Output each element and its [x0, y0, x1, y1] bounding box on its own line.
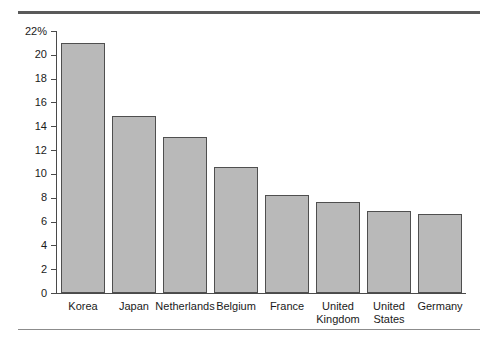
y-axis-tick — [51, 79, 57, 80]
x-axis-category-label: Germany — [409, 300, 471, 313]
y-axis-tick-label-text: 0 — [3, 288, 47, 299]
plot-area: 0246810121416182022% KoreaJapanNetherlan… — [0, 0, 494, 343]
y-axis-line — [56, 31, 57, 293]
y-axis-tick — [51, 222, 57, 223]
y-axis-tick-label-text: 16 — [3, 97, 47, 108]
y-axis-tick — [51, 102, 57, 103]
y-axis-tick-label-text: 4 — [3, 240, 47, 251]
y-axis-tick — [51, 198, 57, 199]
bar — [214, 167, 258, 293]
y-axis-tick-label: 14 — [0, 121, 47, 132]
y-axis-tick-label: 22% — [0, 26, 47, 37]
y-axis-tick-label-text: 12 — [3, 145, 47, 156]
y-axis-tick-label-text: 8 — [3, 192, 47, 203]
y-axis-tick-label: 12 — [0, 145, 47, 156]
y-axis-tick-label: 6 — [0, 216, 47, 227]
y-axis-tick — [51, 55, 57, 56]
y-axis-tick — [51, 126, 57, 127]
y-axis-tick-label: 0 — [0, 288, 47, 299]
bar — [418, 214, 462, 293]
bar — [316, 202, 360, 293]
bar — [367, 211, 411, 293]
y-axis-tick-label: 8 — [0, 192, 47, 203]
y-axis-tick — [51, 174, 57, 175]
y-axis-tick-label-text: 22% — [3, 26, 47, 37]
y-axis-tick-label-text: 6 — [3, 216, 47, 227]
bar-chart-figure: 0246810121416182022% KoreaJapanNetherlan… — [0, 0, 494, 343]
y-axis-tick-label: 16 — [0, 97, 47, 108]
y-axis-tick-label-text: 2 — [3, 264, 47, 275]
y-axis-tick-label-text: 20 — [3, 49, 47, 60]
y-axis-tick — [51, 293, 57, 294]
bar — [61, 43, 105, 293]
y-axis-tick-label: 4 — [0, 240, 47, 251]
y-axis-tick — [51, 269, 57, 270]
y-axis-tick-label: 20 — [0, 49, 47, 60]
x-axis-line — [56, 293, 466, 294]
y-axis-tick — [51, 31, 57, 32]
y-axis-tick-label-text: 18 — [3, 73, 47, 84]
y-axis-tick-label-text: 10 — [3, 168, 47, 179]
y-axis-tick-label: 18 — [0, 73, 47, 84]
y-axis-tick-label-text: 14 — [3, 121, 47, 132]
y-axis-tick — [51, 245, 57, 246]
y-axis-tick — [51, 150, 57, 151]
bar — [112, 116, 156, 293]
bar — [163, 137, 207, 293]
y-axis-tick-label: 10 — [0, 168, 47, 179]
y-axis-tick-label: 2 — [0, 264, 47, 275]
bar — [265, 195, 309, 293]
